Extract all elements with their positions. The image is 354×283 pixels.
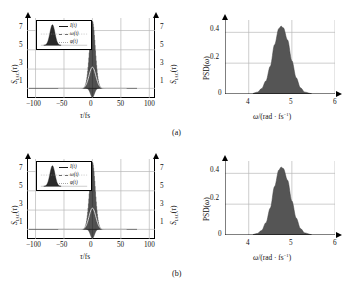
legend-inset-a: I(t) ω(t) φ(t): [36, 20, 92, 50]
legend-swatch-intensity-a: [59, 26, 68, 27]
legend-label-intensity-b: I(t): [70, 164, 77, 169]
x-tick-b-5: 100: [144, 242, 155, 249]
psd-x-tick-a-2: 5: [289, 99, 293, 106]
legend-inset-b: I(t) ω(t) φ(t): [36, 161, 92, 191]
y-tick-left-b-2: 5: [19, 183, 23, 190]
psd-y-tick-b-3: 0: [218, 231, 222, 238]
legend-label-frequency-a: ω(t): [70, 31, 79, 36]
psd-x-tick-a-1: 4: [246, 99, 250, 106]
panel-tag-b: (b): [172, 269, 181, 278]
legend-item-frequency-b: ω(t): [59, 171, 89, 179]
x-tick-a-1: −100: [26, 101, 41, 108]
y-tick-right-a-4: 1: [160, 78, 164, 85]
legend-swatch-phase-b: [59, 183, 68, 184]
psd-axes-b: [225, 161, 335, 235]
panel-b: SIAC(τ) SIAC(τ) 7 5 3 1 7 5 3 1: [0, 141, 354, 282]
psd-trace-a: [225, 20, 335, 94]
x-tick-a-2: −50: [56, 101, 67, 108]
legend-entries-a: I(t) ω(t) φ(t): [59, 22, 89, 46]
y-tick-right-b-1: 7: [160, 165, 164, 172]
y-tick-left-a-3: 3: [19, 60, 23, 67]
x-tick-a-5: 100: [144, 101, 155, 108]
y-tick-right-a-2: 5: [160, 42, 164, 49]
psd-x-axis-arrow-b: [336, 232, 342, 238]
y-tick-left-a-2: 5: [19, 42, 23, 49]
x-tick-b-2: −50: [56, 242, 67, 249]
legend-item-intensity-b: I(t): [59, 163, 89, 171]
y-tick-right-b-3: 3: [160, 201, 164, 208]
y-tick-right-b-4: 1: [160, 219, 164, 226]
psd-y-tick-b-2: 0.2: [210, 195, 219, 202]
y-tick-right-a-1: 7: [160, 24, 164, 31]
legend-label-frequency-b: ω(t): [70, 172, 79, 177]
psd-y-tick-a-2: 0.2: [210, 54, 219, 61]
legend-swatch-phase-a: [59, 42, 68, 43]
legend-label-phase-a: φ(t): [70, 39, 78, 44]
psd-x-tick-b-3: 6: [333, 240, 337, 247]
x-tick-a-3: 0: [89, 101, 93, 108]
figure-root: SIAC(τ) SIAC(τ) 7 5 3 1 7 5 3 1: [0, 0, 354, 283]
x-tick-a-4: 50: [117, 101, 124, 108]
psd-y-tick-b-1: 0.4: [210, 167, 219, 174]
y-tick-left-b-4: 1: [19, 219, 23, 226]
psd-axes-a: [225, 20, 335, 94]
legend-label-intensity-a: I(t): [70, 23, 77, 28]
autocorrelation-axes-a: I(t) ω(t) φ(t): [27, 18, 155, 98]
x-tick-b-3: 0: [89, 242, 93, 249]
legend-swatch-frequency-a: [59, 34, 68, 35]
y-tick-left-a-4: 1: [19, 78, 23, 85]
panel-tag-a: (a): [172, 128, 181, 137]
legend-label-phase-b: φ(t): [70, 180, 78, 185]
legend-swatch-frequency-b: [59, 175, 68, 176]
y-tick-right-a-3: 3: [160, 60, 164, 67]
x-tick-b-4: 50: [117, 242, 124, 249]
psd-x-tick-b-2: 5: [289, 240, 293, 247]
legend-item-phase-a: φ(t): [59, 38, 89, 46]
y-tick-left-a-1: 7: [19, 24, 23, 31]
y-axis-label-right-b: SIAC(τ): [170, 206, 181, 225]
y-axis-label-right-a: SIAC(τ): [170, 65, 181, 84]
y-tick-right-b-2: 5: [160, 183, 164, 190]
legend-item-phase-b: φ(t): [59, 179, 89, 187]
psd-y-tick-a-3: 0: [218, 90, 222, 97]
y-tick-left-b-1: 7: [19, 165, 23, 172]
autocorrelation-axes-b: I(t) ω(t) φ(t): [27, 159, 155, 239]
psd-y-tick-a-1: 0.4: [210, 26, 219, 33]
x-tick-b-1: −100: [26, 242, 41, 249]
psd-x-axis-label-a: ω/(rad · fs−1): [253, 111, 291, 121]
y-tick-left-b-3: 3: [19, 201, 23, 208]
psd-x-tick-b-1: 4: [246, 240, 250, 247]
legend-item-frequency-a: ω(t): [59, 30, 89, 38]
legend-item-intensity-a: I(t): [59, 22, 89, 30]
legend-swatch-intensity-b: [59, 167, 68, 168]
x-axis-label-a: τ/fs: [80, 112, 90, 120]
psd-x-axis-label-b: ω/(rad · fs−1): [253, 252, 291, 262]
psd-x-tick-a-3: 6: [333, 99, 337, 106]
psd-x-axis-arrow-a: [336, 91, 342, 97]
panel-a: SIAC(τ) SIAC(τ) 7 5 3 1 7 5 3 1: [0, 0, 354, 141]
psd-trace-b: [225, 161, 335, 235]
x-axis-label-b: τ/fs: [80, 253, 90, 261]
legend-entries-b: I(t) ω(t) φ(t): [59, 163, 89, 187]
